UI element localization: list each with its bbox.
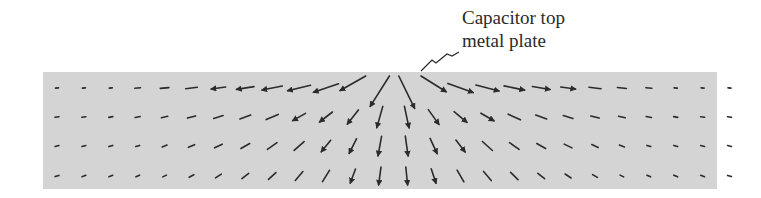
leader-line (421, 52, 459, 71)
field-vector (646, 117, 651, 118)
field-vector (728, 117, 732, 118)
field-vector (135, 117, 140, 118)
field-vector (82, 146, 86, 147)
field-vector (160, 88, 169, 89)
field-vector (109, 117, 113, 118)
field-vector (82, 117, 86, 118)
field-vector (135, 88, 141, 89)
field-vector (617, 88, 626, 89)
field-vector (728, 146, 732, 147)
field-vector (728, 175, 732, 176)
field-vector (55, 146, 59, 147)
field-vector (701, 146, 705, 147)
field-vector (55, 117, 59, 118)
field-vector (701, 117, 705, 118)
field-vector (646, 88, 652, 89)
field-vector (674, 117, 678, 118)
electric-field-diagram (0, 0, 761, 198)
